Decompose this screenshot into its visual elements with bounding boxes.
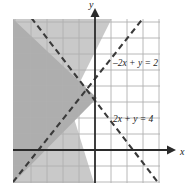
line-1-equation-label: –2x + y = 2 [113,58,158,68]
line-2-equation-label: 2x + y = 4 [113,114,153,124]
y-axis-label: y [89,0,93,10]
graph-canvas [0,0,192,193]
x-axis-label: x [180,146,184,157]
inequality-graph-figure: x y –2x + y = 2 2x + y = 4 [0,0,192,193]
